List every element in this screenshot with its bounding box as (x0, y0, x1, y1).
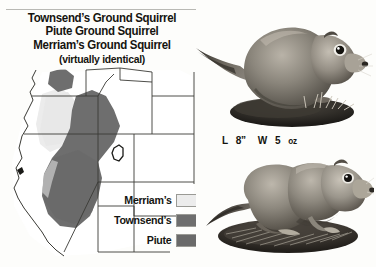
title-line-piute: Piute Ground Squirrel (15, 25, 190, 38)
squirrel-standing-illustration (196, 148, 374, 264)
ground-squirrel-photo-standing (196, 148, 374, 264)
page-title: Townsend’s Ground Squirrel Piute Ground … (8, 12, 196, 65)
legend-item-merriams[interactable]: Merriam’s (96, 190, 200, 210)
title-line-townsends: Townsend’s Ground Squirrel (15, 12, 190, 25)
ground-squirrel-photo-upright (196, 8, 374, 130)
legend-item-piute[interactable]: Piute (96, 230, 200, 250)
legend-label-merriams: Merriam’s (124, 194, 176, 206)
length-value: 8” (236, 134, 246, 146)
legend-label-townsends: Townsend’s (114, 214, 176, 226)
title-note-virtually-identical: (virtually identical) (15, 52, 190, 65)
measurement-caption: L 8” W 5 oz (222, 134, 297, 146)
length-label: L (222, 134, 228, 146)
field-guide-page: Townsend’s Ground Squirrel Piute Ground … (0, 0, 376, 267)
weight-unit: oz (288, 136, 297, 146)
legend-label-piute: Piute (147, 234, 176, 246)
weight-label: W (258, 134, 267, 146)
weight-value: 5 (275, 134, 280, 146)
title-line-merriams: Merriam’s Ground Squirrel (15, 39, 190, 52)
squirrel-upright-illustration (196, 8, 374, 130)
map-legend: Merriam’s Townsend’s Piute (96, 190, 200, 250)
legend-item-townsends[interactable]: Townsend’s (96, 210, 200, 230)
